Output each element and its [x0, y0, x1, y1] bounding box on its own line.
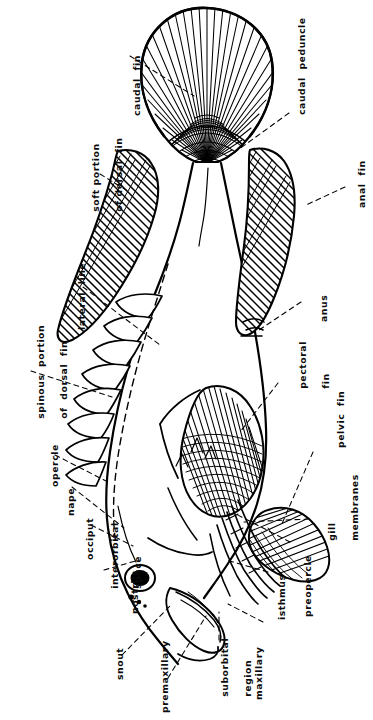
label-caudal-peduncle: caudal peduncle — [296, 17, 307, 115]
label-line-1: gill — [326, 522, 337, 540]
label-line-1: suborbital — [219, 638, 230, 697]
label-anal-fin: anal fin — [356, 160, 367, 208]
label-pectoral-fin: pectoral fin — [285, 341, 343, 404]
label-interorbital-space: interorbital space — [97, 522, 155, 604]
leader-anal-fin — [306, 187, 345, 205]
label-premaxillary: premaxillary — [159, 640, 170, 713]
label-line-2: of dorsal fin — [113, 138, 124, 212]
pectoral-fin-shape — [173, 385, 266, 526]
label-isthmus: isthmus — [276, 575, 287, 620]
label-snout: snout — [114, 648, 125, 680]
label-nape: nape — [65, 488, 76, 516]
label-line-1: interorbital — [109, 522, 120, 588]
label-line-1: soft portion — [90, 143, 101, 212]
label-soft-portion-of-dorsal-fin: soft portion of dorsal fin — [78, 138, 136, 227]
label-anus: anus — [318, 295, 329, 322]
label-pelvic-fin: pelvic fin — [335, 391, 346, 448]
leader-maxillary — [228, 604, 263, 622]
label-occiput: occiput — [84, 518, 95, 560]
label-lateral-line: lateral line — [76, 263, 87, 330]
label-line-2: region — [242, 660, 253, 697]
label-line-1: pectoral — [297, 341, 308, 389]
label-caudal-fin: caudal fin — [131, 55, 142, 116]
label-nostrils: nostrils — [129, 570, 140, 614]
label-line-2: membranes — [349, 474, 360, 541]
label-maxillary: maxillary — [253, 647, 264, 700]
label-line-2: fin — [320, 373, 331, 389]
label-opercle: opercle — [49, 444, 60, 487]
label-line-1: spinous portion — [35, 325, 46, 419]
fish-anatomy-diagram: caudal fin caudal peduncle soft portion … — [0, 0, 373, 720]
label-spinous-portion-of-dorsal-fin: spinous portion of dorsal fin — [23, 325, 81, 434]
label-line-2: of dorsal fin — [58, 341, 69, 419]
label-preopercle: preopercle — [302, 555, 313, 617]
label-gill-membranes: gill membranes — [314, 474, 372, 556]
